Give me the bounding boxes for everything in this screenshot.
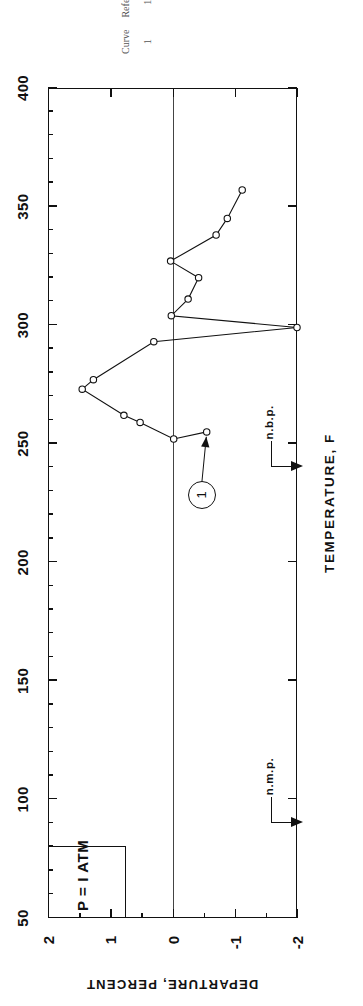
data-point-marker <box>185 296 191 302</box>
data-point-marker <box>90 377 96 383</box>
data-point-marker <box>195 275 201 281</box>
data-point-marker <box>213 232 219 238</box>
data-point-marker <box>224 215 230 221</box>
data-point-marker <box>239 187 245 193</box>
data-point-marker <box>167 258 173 264</box>
data-series-line <box>82 190 297 439</box>
data-curve-plot <box>0 0 363 1006</box>
reference-curve-number: 1 <box>142 24 153 60</box>
departure-chart-figure: TEMPERATURE, K TEMPERATURE, F DEPARTURE,… <box>0 0 363 1006</box>
curve-number-balloon: 1 <box>188 481 216 509</box>
reference-table: Curve Reference 1137 <box>120 0 153 60</box>
data-point-marker <box>79 386 85 392</box>
reference-table-header-reference: Reference <box>120 0 142 24</box>
data-point-marker <box>137 419 143 425</box>
reference-table-header-curve: Curve <box>120 24 142 60</box>
reference-table-row: 1137 <box>142 0 153 60</box>
data-point-marker <box>204 429 210 435</box>
data-point-marker <box>171 436 177 442</box>
data-point-marker <box>151 339 157 345</box>
data-point-marker <box>121 412 127 418</box>
balloon-arrowhead-icon <box>201 437 209 448</box>
data-point-marker <box>294 324 300 330</box>
reference-source-number: 137 <box>142 0 153 24</box>
data-point-marker <box>168 313 174 319</box>
rotated-page-wrapper: TEMPERATURE, K TEMPERATURE, F DEPARTURE,… <box>0 0 363 1006</box>
